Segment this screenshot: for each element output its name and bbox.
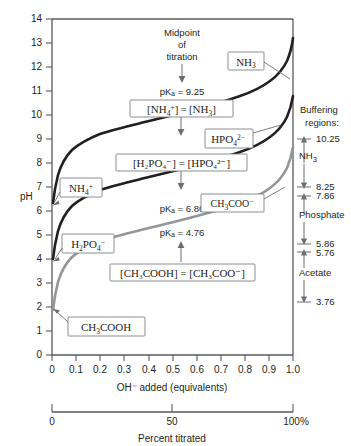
y-axis-title: pH: [20, 191, 33, 202]
y-axis-ticks: [46, 19, 52, 355]
arrow-down-icon: [178, 183, 185, 190]
buffer-lower-value: 3.76: [316, 296, 335, 307]
callout-h2po4: H2PO4−: [53, 234, 115, 262]
x-tick: 0.8: [238, 364, 252, 375]
x-tick: 0.9: [262, 364, 276, 375]
y-tick: 13: [31, 37, 43, 48]
x-tick: 0.1: [69, 364, 83, 375]
percent-titrated-axis: 0 50 100% Percent titrated: [49, 404, 309, 444]
y-tick: 12: [31, 61, 43, 72]
arrow-down-icon: [178, 129, 185, 136]
percent-axis-title: Percent titrated: [138, 433, 206, 444]
equation-phosphate-text: [H₂PO₄⁻] = [HPO₄²⁻]: [133, 157, 230, 169]
x-tick: 0.2: [93, 364, 107, 375]
buffer-region-name: Acetate: [299, 267, 331, 278]
y-tick: 5: [36, 229, 42, 240]
midpoint-line2: of: [178, 39, 186, 50]
x-axis-ticks: [52, 355, 293, 361]
buffering-heading-line1: Buffering: [300, 104, 338, 115]
buffer-upper-value: 5.76: [316, 247, 335, 258]
y-tick: 2: [36, 301, 42, 312]
percent-tick: 0: [49, 416, 55, 427]
midpoint-line3: titration: [166, 51, 197, 62]
x-tick: 0.4: [142, 364, 156, 375]
y-tick: 14: [31, 13, 43, 24]
callout-nh3: NH3: [228, 52, 290, 79]
callout-ch3coo: CH3COO−: [201, 187, 285, 212]
buffer-upper-value: 10.25: [316, 133, 340, 144]
buffer-region-acetate: 5.76 Acetate 3.76: [297, 247, 335, 307]
buffer-region-name: NH3: [299, 150, 317, 164]
pka-phosphate-label: pKₐ = 6.86: [160, 203, 204, 214]
y-tick: 10: [31, 109, 43, 120]
y-tick: 8: [36, 157, 42, 168]
y-tick: 9: [36, 133, 42, 144]
midpoint-line1: Midpoint: [164, 27, 200, 38]
y-tick: 7: [36, 181, 42, 192]
arrow-down-icon: [301, 183, 307, 190]
callout-ch3cooh: CH3COOH: [53, 309, 145, 336]
buffer-upper-value: 7.86: [316, 190, 335, 201]
midpoint-annotation: Midpoint of titration: [164, 27, 200, 83]
arrow-up-icon: [178, 241, 185, 248]
x-tick: 0.7: [214, 364, 228, 375]
y-tick: 3: [36, 277, 42, 288]
y-tick: 4: [36, 253, 42, 264]
arrow-head-icon: [53, 309, 60, 314]
buffer-region-phosphate: 7.86 Phosphate 5.86: [297, 190, 344, 249]
x-axis-tick-labels: 0 0.1 0.2 0.3 0.4 0.5 0.6 0.7 0.8 0.9 1.…: [49, 364, 300, 375]
y-axis-tick-labels: 0 1 2 3 4 5 6 7 8 9 10 11 12 13 14: [31, 13, 43, 360]
arrow-down-icon: [179, 76, 186, 83]
equation-acetate-text: [CH₃COOH] = [CH₃COO⁻]: [120, 267, 245, 279]
x-tick: 0.5: [166, 364, 180, 375]
buffering-regions-panel: Buffering regions: 10.25 NH3 8.25 7.86 P…: [297, 104, 344, 307]
buffer-region-name: Phosphate: [299, 209, 344, 220]
titration-curve-figure: 0 1 2 3 4 5 6 7 8 9 10 11 12 13 14 pH 0 …: [0, 0, 351, 446]
x-tick: 0.6: [190, 364, 204, 375]
percent-tick: 100%: [283, 416, 309, 427]
buffer-region-nh3: 10.25 NH3 8.25: [297, 133, 340, 192]
x-tick: 1.0: [286, 364, 300, 375]
x-axis-title: OH⁻ added (equivalents): [117, 382, 228, 393]
x-tick: 0: [49, 364, 55, 375]
x-tick: 0.3: [117, 364, 131, 375]
y-tick: 0: [36, 349, 42, 360]
buffering-heading-line2: regions:: [305, 117, 339, 128]
equation-box-acetate: [CH₃COOH] = [CH₃COO⁻]: [110, 241, 255, 281]
equation-box-phosphate: [H₂PO₄⁻] = [HPO₄²⁻]: [116, 154, 247, 190]
chart-svg: 0 1 2 3 4 5 6 7 8 9 10 11 12 13 14 pH 0 …: [0, 0, 351, 446]
pka-ammonium-label: pKₐ = 9.25: [160, 86, 204, 97]
y-tick: 1: [36, 325, 42, 336]
percent-tick: 50: [166, 416, 178, 427]
pka-acetate-label: pKₐ = 4.76: [160, 227, 204, 238]
y-tick: 11: [32, 85, 43, 96]
y-tick: 6: [36, 205, 42, 216]
